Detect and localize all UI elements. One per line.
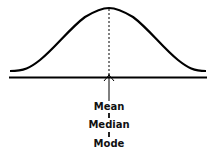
label-mean: Mean [0, 102, 212, 112]
label-separator [108, 113, 110, 118]
normal-distribution-diagram [0, 0, 212, 156]
label-median: Median [0, 120, 212, 130]
label-separator [108, 132, 110, 137]
label-mode: Mode [0, 139, 212, 149]
bell-curve [10, 8, 206, 71]
